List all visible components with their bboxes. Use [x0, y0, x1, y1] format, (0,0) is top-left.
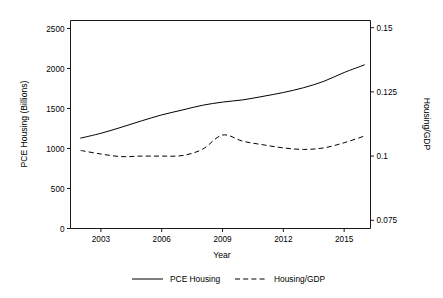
y-axis-left-tick-label: 1000 [46, 145, 65, 154]
y-axis-right-tick-label: 0.125 [377, 88, 398, 97]
y-axis-right-title: Housing/GDP [422, 98, 432, 151]
y-axis-right-tick-label: 0.15 [377, 24, 393, 33]
y-axis-left-tick-label: 1500 [46, 105, 65, 114]
legend-label-housing-gdp: Housing/GDP [274, 274, 326, 284]
y-axis-left-tick-label: 0 [60, 225, 65, 234]
y-axis-right-tick-label: 0.075 [377, 216, 398, 225]
x-axis-tick-label: 2006 [153, 235, 172, 244]
y-axis-left-tick-label: 2000 [46, 65, 65, 74]
y-axis-left-tick-label: 500 [51, 185, 65, 194]
x-axis-tick-label: 2012 [274, 235, 293, 244]
chart-figure: 05001000150020002500 0.0750.10.1250.15 2… [0, 0, 443, 298]
x-axis-title: Year [213, 250, 231, 260]
y-axis-right-tick-label: 0.1 [377, 152, 389, 161]
line-chart: 05001000150020002500 0.0750.10.1250.15 2… [0, 0, 443, 298]
x-axis-tick-label: 2015 [335, 235, 354, 244]
x-axis-tick-label: 2009 [213, 235, 232, 244]
legend-label-pce-housing: PCE Housing [170, 274, 221, 284]
y-axis-left-title: PCE Housing (Billions) [19, 80, 29, 167]
y-axis-left-tick-label: 2500 [46, 25, 65, 34]
x-axis-tick-label: 2003 [92, 235, 111, 244]
